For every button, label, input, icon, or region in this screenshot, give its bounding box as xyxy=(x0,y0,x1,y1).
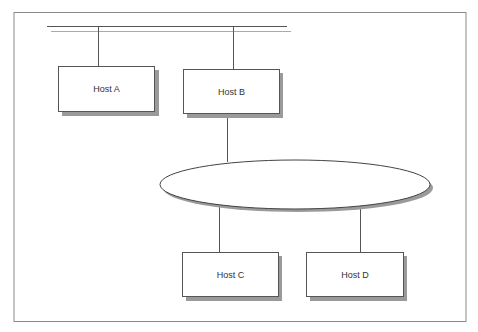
host-c-node: Host C xyxy=(183,253,283,302)
host-b-label: Host B xyxy=(218,87,245,97)
host-d-label: Host D xyxy=(341,270,369,280)
host-a-label: Host A xyxy=(93,84,120,94)
host-a-node: Host A xyxy=(59,67,160,117)
network-ellipse xyxy=(160,160,433,212)
network-diagram: Host A Host B Host C Host D xyxy=(0,0,478,332)
host-b-node: Host B xyxy=(184,70,284,119)
host-d-node: Host D xyxy=(307,253,408,302)
host-c-label: Host C xyxy=(217,270,245,280)
